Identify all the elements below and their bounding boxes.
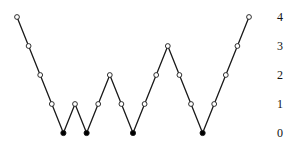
open-vertex [142,102,147,107]
open-vertex [165,44,170,49]
open-vertex [38,73,43,78]
path-line [17,17,249,133]
open-vertex [223,73,228,78]
open-vertex [235,44,240,49]
level-label-4: 4 [277,10,283,24]
level-axis-labels: 01234 [277,10,283,140]
level-label-2: 2 [277,68,283,82]
path-points [15,15,252,136]
filled-vertex [130,130,135,135]
open-vertex [26,44,31,49]
open-vertex [189,102,194,107]
filled-vertex [200,130,205,135]
level-label-3: 3 [277,39,283,53]
path-polyline [17,17,249,133]
filled-vertex [61,130,66,135]
level-label-1: 1 [277,97,283,111]
open-vertex [107,73,112,78]
open-vertex [49,102,54,107]
open-vertex [212,102,217,107]
open-vertex [96,102,101,107]
lattice-path-diagram: 01234 [0,0,298,143]
open-vertex [119,102,124,107]
level-label-0: 0 [277,126,283,140]
open-vertex [247,15,252,20]
filled-vertex [84,130,89,135]
open-vertex [177,73,182,78]
open-vertex [15,15,20,20]
open-vertex [73,102,78,107]
open-vertex [154,73,159,78]
